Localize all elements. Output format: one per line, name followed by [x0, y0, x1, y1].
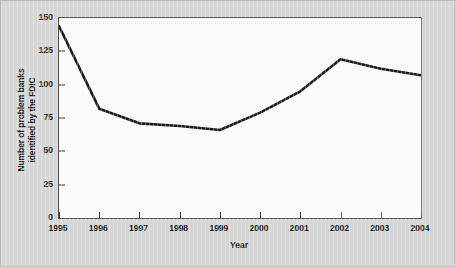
- x-axis-tick-mark: [99, 212, 100, 218]
- line-series-svg: [59, 18, 421, 218]
- chart-figure: Number of problem banks identified by th…: [0, 0, 455, 267]
- x-axis-tick-mark: [260, 212, 261, 218]
- y-axis-tick-label: 25: [23, 179, 53, 189]
- x-axis-tick-label: 2000: [239, 223, 279, 233]
- x-axis-tick-mark: [139, 212, 140, 218]
- x-axis-tick-label: 1997: [118, 223, 158, 233]
- x-axis-tick-mark: [220, 212, 221, 218]
- y-axis-tick-mark: [59, 151, 65, 152]
- series-line-problem-banks: [59, 26, 421, 130]
- y-axis-tick-label: 100: [23, 79, 53, 89]
- x-axis-tick-labels: 1995199619971998199920002001200220032004: [58, 223, 420, 237]
- x-axis-tick-label: 1996: [78, 223, 118, 233]
- x-axis-title: Year: [58, 240, 420, 250]
- x-axis-tick-label: 2002: [320, 223, 360, 233]
- x-axis-tick-mark: [421, 212, 422, 218]
- y-axis-tick-label: 150: [23, 12, 53, 22]
- x-axis-tick-mark: [300, 212, 301, 218]
- x-axis-tick-label: 1998: [159, 223, 199, 233]
- y-axis-tick-labels: 0255075100125150: [23, 11, 53, 223]
- y-axis-tick-mark: [59, 184, 65, 185]
- x-axis-tick-label: 1995: [38, 223, 78, 233]
- y-axis-tick-label: 50: [23, 145, 53, 155]
- y-axis-tick-mark: [59, 84, 65, 85]
- x-axis-tick-mark: [381, 212, 382, 218]
- y-axis-tick-label: 125: [23, 45, 53, 55]
- y-axis-tick-label: 0: [23, 212, 53, 222]
- y-axis-tick-mark: [59, 118, 65, 119]
- y-axis-tick-mark: [59, 51, 65, 52]
- plot-area: [58, 17, 422, 219]
- x-axis-tick-label: 2004: [400, 223, 440, 233]
- x-axis-tick-label: 1999: [199, 223, 239, 233]
- x-axis-tick-mark: [341, 212, 342, 218]
- y-axis-tick-label: 75: [23, 112, 53, 122]
- x-axis-tick-mark: [180, 212, 181, 218]
- x-axis-tick-label: 2003: [360, 223, 400, 233]
- x-axis-tick-label: 2001: [279, 223, 319, 233]
- x-axis-tick-mark: [59, 212, 60, 218]
